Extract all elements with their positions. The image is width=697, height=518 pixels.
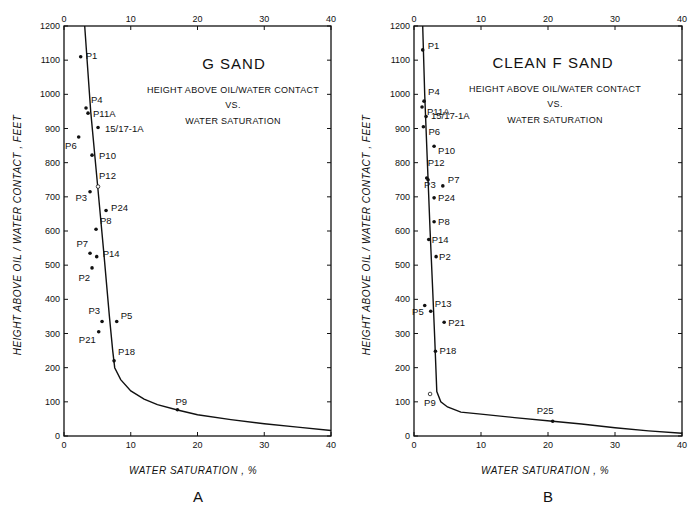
subtitle-line3-b: WATER SATURATION bbox=[507, 115, 602, 125]
data-point-label: P12 bbox=[428, 157, 445, 168]
data-point-label: P13 bbox=[435, 298, 452, 309]
data-point-label: P1 bbox=[428, 40, 440, 51]
figure: 001010202030304040 010020030040050060070… bbox=[0, 0, 697, 518]
data-point-label: P5 bbox=[412, 306, 424, 317]
svg-text:1200: 1200 bbox=[390, 21, 410, 31]
data-point bbox=[94, 227, 98, 231]
data-point-label: 15/17-1A bbox=[105, 123, 144, 134]
svg-text:0: 0 bbox=[61, 440, 66, 450]
svg-text:700: 700 bbox=[45, 192, 60, 202]
data-point bbox=[97, 330, 101, 334]
svg-text:20: 20 bbox=[543, 14, 553, 24]
data-point-label: P9 bbox=[424, 397, 436, 408]
svg-text:800: 800 bbox=[45, 158, 60, 168]
data-points-a: P1P4P11A15/17-1AP6P10P12P3P24P8P7P14P2P3… bbox=[65, 50, 187, 412]
subtitle-line3-a: WATER SATURATION bbox=[185, 116, 280, 126]
svg-text:0: 0 bbox=[411, 440, 416, 450]
data-point-label: P2 bbox=[78, 272, 90, 283]
panel-label-a: A bbox=[193, 488, 203, 505]
data-point-label: P14 bbox=[432, 234, 449, 245]
data-point bbox=[95, 255, 99, 259]
data-point bbox=[441, 184, 445, 188]
data-point-label: P7 bbox=[448, 174, 460, 185]
svg-text:30: 30 bbox=[610, 440, 620, 450]
svg-text:10: 10 bbox=[476, 14, 486, 24]
svg-text:400: 400 bbox=[45, 294, 60, 304]
svg-text:900: 900 bbox=[395, 124, 410, 134]
data-point bbox=[442, 320, 446, 324]
data-point-label: P4 bbox=[428, 86, 440, 97]
data-point-label: P21 bbox=[79, 334, 96, 345]
data-point-label: P1 bbox=[86, 50, 98, 61]
x-axis-label-a: WATER SATURATION , % bbox=[129, 465, 257, 476]
data-point bbox=[429, 309, 433, 313]
data-point bbox=[112, 359, 116, 363]
data-point bbox=[86, 111, 90, 115]
x-ticks-b: 001010202030304040 bbox=[411, 14, 687, 450]
data-point-label: P6 bbox=[428, 126, 440, 137]
svg-text:0: 0 bbox=[55, 431, 60, 441]
data-point bbox=[79, 55, 83, 59]
data-point-label: P7 bbox=[76, 238, 88, 249]
data-point bbox=[422, 125, 426, 129]
subtitle-line2-a: VS. bbox=[225, 100, 240, 110]
data-point bbox=[422, 99, 426, 103]
data-point-label: P10 bbox=[99, 150, 116, 161]
data-point bbox=[432, 144, 436, 148]
svg-text:300: 300 bbox=[45, 329, 60, 339]
data-point-label: P25 bbox=[537, 405, 554, 416]
data-point bbox=[115, 320, 119, 324]
svg-text:800: 800 bbox=[395, 158, 410, 168]
data-point-label: P9 bbox=[175, 396, 187, 407]
y-ticks-a: 0100200300400500600700800900100011001200 bbox=[40, 21, 331, 441]
svg-text:100: 100 bbox=[395, 397, 410, 407]
data-point bbox=[432, 196, 436, 200]
svg-text:20: 20 bbox=[543, 440, 553, 450]
svg-text:400: 400 bbox=[395, 294, 410, 304]
y-axis-label-b: HEIGHT ABOVE OIL / WATER CONTACT , FEET bbox=[361, 114, 372, 355]
data-point bbox=[90, 153, 94, 157]
svg-text:20: 20 bbox=[192, 440, 202, 450]
panel-label-b: B bbox=[543, 488, 553, 505]
svg-text:1100: 1100 bbox=[391, 55, 410, 65]
svg-text:0: 0 bbox=[61, 14, 66, 24]
data-point bbox=[420, 105, 424, 109]
data-point bbox=[421, 48, 425, 52]
svg-text:40: 40 bbox=[326, 14, 336, 24]
y-axis-label-a: HEIGHT ABOVE OIL / WATER CONTACT , FEET bbox=[12, 114, 23, 355]
data-point bbox=[176, 408, 180, 412]
svg-text:1200: 1200 bbox=[40, 21, 60, 31]
data-point bbox=[96, 185, 100, 189]
svg-text:40: 40 bbox=[677, 14, 687, 24]
svg-text:0: 0 bbox=[411, 14, 416, 24]
data-point bbox=[77, 135, 81, 139]
data-point bbox=[551, 420, 555, 424]
svg-text:40: 40 bbox=[677, 440, 687, 450]
svg-text:1000: 1000 bbox=[390, 89, 410, 99]
data-point-label: P8 bbox=[438, 216, 450, 227]
chart-title-a: G SAND bbox=[202, 55, 266, 72]
chart-title-b: CLEAN F SAND bbox=[492, 54, 613, 71]
data-point-label: P6 bbox=[65, 140, 77, 151]
subtitle-line1-a: HEIGHT ABOVE OIL/WATER CONTACT bbox=[147, 85, 319, 95]
data-point-label: P3 bbox=[75, 192, 87, 203]
data-point-label: P2 bbox=[439, 251, 451, 262]
x-ticks-a: 001010202030304040 bbox=[61, 14, 336, 450]
svg-text:10: 10 bbox=[476, 440, 486, 450]
data-point-label: P18 bbox=[118, 346, 135, 357]
svg-text:30: 30 bbox=[259, 440, 269, 450]
data-point bbox=[88, 251, 92, 255]
svg-text:600: 600 bbox=[395, 226, 410, 236]
data-point-label: P24 bbox=[438, 192, 455, 203]
svg-text:0: 0 bbox=[405, 431, 410, 441]
data-point bbox=[96, 126, 100, 130]
subtitle-line1-b: HEIGHT ABOVE OIL/WATER CONTACT bbox=[469, 84, 641, 94]
data-point bbox=[434, 349, 438, 353]
data-point-label: 15/17-1A bbox=[431, 110, 470, 121]
svg-text:300: 300 bbox=[395, 329, 410, 339]
data-point bbox=[104, 209, 108, 213]
data-point-label: P24 bbox=[111, 202, 128, 213]
data-point-label: P21 bbox=[448, 317, 465, 328]
data-point bbox=[88, 190, 92, 194]
data-point-label: P10 bbox=[438, 145, 455, 156]
